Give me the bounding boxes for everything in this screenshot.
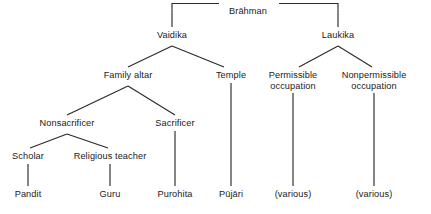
node-family-altar[interactable]: Family altar: [104, 70, 153, 81]
node-temple[interactable]: Temple: [216, 70, 246, 81]
edge-family-altar-to-nonsacrificer: [67, 86, 128, 115]
node-vaidika[interactable]: Vaidika: [157, 30, 187, 41]
node-pujari[interactable]: Pūjāri: [219, 189, 243, 200]
node-various-nonpermissible[interactable]: (various): [356, 189, 393, 200]
edge-vaidika-to-family-altar: [128, 46, 172, 67]
hierarchy-diagram: Brāhman Vaidika Laukika Family altar Tem…: [0, 0, 431, 214]
node-purohita[interactable]: Purohita: [157, 189, 192, 200]
node-religious-teacher[interactable]: Religious teacher: [74, 151, 147, 162]
tree-connector-lines: [0, 0, 431, 214]
node-sacrificer[interactable]: Sacrificer: [155, 118, 194, 129]
edge-brahman-bracket: [172, 4, 219, 10]
node-nonsacrificer[interactable]: Nonsacrificer: [40, 118, 95, 129]
edge-vaidika-to-temple: [172, 46, 224, 67]
edge-family-altar-to-sacrificer: [128, 86, 175, 115]
node-various-permissible[interactable]: (various): [275, 189, 312, 200]
node-guru[interactable]: Guru: [100, 189, 121, 200]
node-nonpermissible-occupation[interactable]: Nonpermissible occupation: [335, 70, 413, 91]
edge-nonsacrificer-to-scholar: [30, 134, 67, 148]
edge-brahman-bracket-right: [279, 4, 338, 10]
edge-laukika-to-permissible: [299, 46, 338, 67]
node-laukika[interactable]: Laukika: [322, 30, 354, 41]
node-permissible-occupation[interactable]: Permissible occupation: [254, 70, 332, 91]
node-brahman[interactable]: Brāhman: [229, 6, 267, 17]
edge-laukika-to-nonpermissible: [338, 46, 372, 67]
edge-nonsacrificer-to-religious-teacher: [67, 134, 108, 148]
node-scholar[interactable]: Scholar: [12, 151, 44, 162]
node-pandit[interactable]: Pandit: [15, 189, 42, 200]
